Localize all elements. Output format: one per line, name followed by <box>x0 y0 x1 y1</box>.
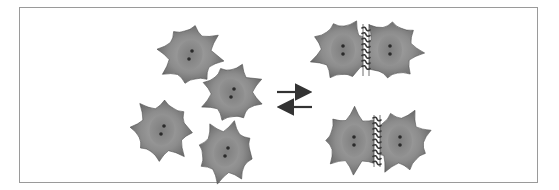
cell-adhesion-diagram <box>0 0 559 190</box>
paired-cell-left <box>326 106 382 175</box>
cell-pair <box>310 21 424 78</box>
nucleolus <box>341 44 345 48</box>
nucleolus <box>232 87 236 91</box>
adherent-cell-pairs <box>310 21 431 175</box>
nucleolus <box>398 143 402 147</box>
single-cell <box>130 100 192 161</box>
nucleolus <box>159 132 163 136</box>
cell-pair <box>326 106 431 175</box>
nucleus <box>342 125 366 157</box>
nucleus <box>331 34 355 66</box>
single-cell <box>202 64 262 120</box>
single-cell <box>157 26 224 84</box>
nucleolus <box>229 95 233 99</box>
nucleolus <box>341 52 345 56</box>
nucleolus <box>223 154 227 158</box>
nucleolus <box>190 49 194 53</box>
nucleus <box>388 125 412 157</box>
nucleolus <box>226 146 230 150</box>
nucleolus <box>187 57 191 61</box>
nucleolus <box>162 124 166 128</box>
nucleolus <box>352 135 356 139</box>
single-cells-group <box>130 26 262 185</box>
single-cell <box>199 121 252 184</box>
nucleolus <box>352 143 356 147</box>
nucleolus <box>388 52 392 56</box>
equilibrium-arrows <box>277 92 312 107</box>
nucleus <box>378 34 402 66</box>
nucleolus <box>388 44 392 48</box>
nucleolus <box>398 135 402 139</box>
